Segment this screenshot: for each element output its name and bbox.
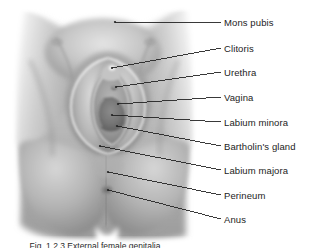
label-mons-pubis: Mons pubis [224, 18, 274, 28]
figure-caption: Fig. 1.2.3 External female genitalia [0, 241, 190, 248]
label-anus: Anus [224, 215, 246, 225]
label-clitoris: Clitoris [224, 44, 254, 54]
anatomy-figure: Mons pubis Clitoris Urethra Vagina Labiu… [0, 0, 315, 248]
label-vagina: Vagina [224, 93, 253, 103]
label-labium-majora: Labium majora [224, 166, 288, 176]
label-urethra: Urethra [224, 68, 256, 78]
label-perineum: Perineum [224, 191, 265, 201]
label-bartholins-gland: Bartholin's gland [224, 142, 296, 152]
label-labium-minora: Labium minora [224, 118, 288, 128]
